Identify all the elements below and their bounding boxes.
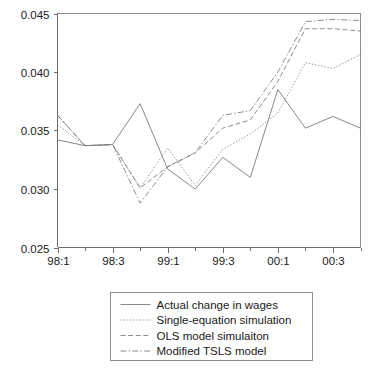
series-line-3 xyxy=(58,19,361,203)
line-chart: 0.0250.0300.0350.0400.045 98:198:399:199… xyxy=(0,0,375,368)
legend-label-3: Modified TSLS model xyxy=(157,345,267,357)
chart-legend: Actual change in wagesSingle-equation si… xyxy=(111,293,313,361)
legend-label-1: Single-equation simulation xyxy=(157,314,292,326)
x-axis-group: 98:198:399:199:300:100:3 xyxy=(47,248,361,267)
x-tick-label: 98:1 xyxy=(47,255,69,267)
y-tick-label-group: 0.0250.0300.0350.0400.045 xyxy=(21,9,50,255)
y-tick-label: 0.025 xyxy=(21,243,50,255)
x-tick-label: 99:1 xyxy=(157,255,179,267)
series-line-0 xyxy=(58,90,361,189)
x-tick-label: 98:3 xyxy=(102,255,124,267)
chart-figure: 0.0250.0300.0350.0400.045 98:198:399:199… xyxy=(0,0,375,368)
x-tick-label-group: 98:198:399:199:300:100:3 xyxy=(47,255,344,267)
plot-frame xyxy=(58,14,361,248)
series-line-2 xyxy=(58,29,361,188)
y-tick-label: 0.040 xyxy=(21,67,50,79)
legend-label-2: OLS model simulaiton xyxy=(157,330,270,342)
x-tick-label: 00:1 xyxy=(267,255,289,267)
y-tick-group xyxy=(54,15,58,249)
y-tick-label: 0.030 xyxy=(21,184,50,196)
series-group xyxy=(58,19,361,203)
y-axis-group: 0.0250.0300.0350.0400.045 xyxy=(21,9,58,255)
series-line-1 xyxy=(58,54,361,187)
y-tick-label: 0.035 xyxy=(21,125,50,137)
x-tick-label: 00:3 xyxy=(322,255,344,267)
legend-label-0: Actual change in wages xyxy=(157,299,279,311)
y-tick-label: 0.045 xyxy=(21,9,50,21)
x-tick-group xyxy=(59,248,362,253)
x-tick-label: 99:3 xyxy=(212,255,234,267)
